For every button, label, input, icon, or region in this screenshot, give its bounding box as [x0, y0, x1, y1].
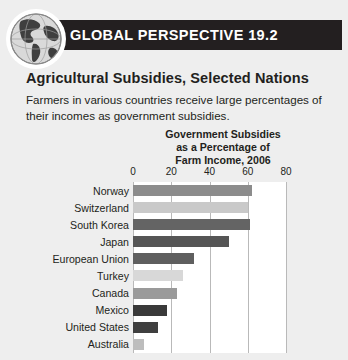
category-label: Canada	[0, 287, 129, 299]
bar-row: European Union	[0, 250, 348, 267]
chart-title-line: Government Subsidies	[133, 128, 313, 141]
bar	[133, 253, 194, 264]
bar-row: Switzerland	[0, 199, 348, 216]
globe-icon	[6, 9, 66, 69]
x-axis-tick-labels: 020406080	[0, 166, 348, 180]
bar	[133, 288, 177, 299]
banner: GLOBAL PERSPECTIVE 19.2	[46, 20, 342, 50]
category-label: Norway	[0, 185, 129, 197]
bar	[133, 270, 183, 281]
category-label: Australia	[0, 338, 129, 350]
bar-row: Norway	[0, 182, 348, 199]
bar	[133, 236, 229, 247]
bar	[133, 185, 252, 196]
figure-description: Farmers in various countries receive lar…	[26, 92, 326, 124]
x-tick-label: 20	[166, 166, 177, 177]
chart-title-line: as a Percentage of	[133, 141, 313, 154]
x-tick-label: 0	[130, 166, 136, 177]
x-tick-label: 80	[280, 166, 291, 177]
bar-rows: NorwaySwitzerlandSouth KoreaJapanEuropea…	[0, 182, 348, 353]
bar	[133, 219, 250, 230]
bar-row: Mexico	[0, 302, 348, 319]
bar-row: Japan	[0, 233, 348, 250]
global-perspective-box: GLOBAL PERSPECTIVE 19.2 Agricultural Sub…	[0, 0, 348, 360]
category-label: European Union	[0, 253, 129, 265]
x-tick-label: 60	[242, 166, 253, 177]
x-tick-label: 40	[204, 166, 215, 177]
bar-row: Australia	[0, 336, 348, 353]
bar-row: United States	[0, 319, 348, 336]
bar	[133, 202, 248, 213]
chart-title: Government Subsidiesas a Percentage ofFa…	[133, 128, 313, 167]
category-label: Japan	[0, 236, 129, 248]
bar	[133, 305, 167, 316]
figure-title: Agricultural Subsidies, Selected Nations	[26, 70, 336, 86]
category-label: Switzerland	[0, 202, 129, 214]
category-label: United States	[0, 321, 129, 333]
bar-row: Canada	[0, 285, 348, 302]
bar-chart: Government Subsidiesas a Percentage ofFa…	[0, 128, 348, 360]
bar-row: South Korea	[0, 216, 348, 233]
category-label: Turkey	[0, 270, 129, 282]
category-label: South Korea	[0, 219, 129, 231]
bar	[133, 322, 158, 333]
bar-row: Turkey	[0, 267, 348, 284]
banner-title: GLOBAL PERSPECTIVE 19.2	[70, 27, 278, 43]
bar	[133, 339, 144, 350]
category-label: Mexico	[0, 304, 129, 316]
